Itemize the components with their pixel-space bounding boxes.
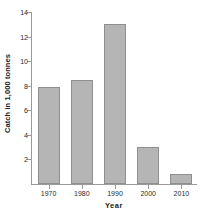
y-tick-label: 10 (20, 58, 28, 65)
x-axis-line (31, 184, 197, 185)
x-tick-label: 1970 (41, 190, 57, 197)
y-axis-title: Catch in 1,000 tonnes (0, 0, 16, 186)
y-tick-label: 8 (24, 82, 28, 89)
y-axis-title-text: Catch in 1,000 tonnes (4, 53, 13, 132)
x-tick-mark (49, 185, 50, 189)
x-tick-mark (82, 185, 83, 189)
x-tick-label: 1980 (74, 190, 90, 197)
plot-area: 2468101214 19701980199020002010 (31, 12, 197, 185)
bar (71, 80, 93, 184)
y-tick-label: 4 (24, 131, 28, 138)
bar (104, 24, 126, 184)
y-tick-label: 14 (20, 9, 28, 16)
bar (137, 147, 159, 184)
bar-chart-figure: Catch in 1,000 tonnes 2468101214 1970198… (0, 0, 203, 224)
y-tick-label: 6 (24, 107, 28, 114)
x-tick-label: 2010 (174, 190, 190, 197)
x-tick-mark (115, 185, 116, 189)
y-tick-label: 2 (24, 156, 28, 163)
x-tick-mark (148, 185, 149, 189)
y-tick-label: 12 (20, 33, 28, 40)
bar (38, 87, 60, 184)
bar (170, 174, 192, 184)
x-axis-title: Year (31, 201, 197, 210)
x-tick-label: 1990 (107, 190, 123, 197)
x-tick-label: 2000 (140, 190, 156, 197)
x-tick-mark (181, 185, 182, 189)
